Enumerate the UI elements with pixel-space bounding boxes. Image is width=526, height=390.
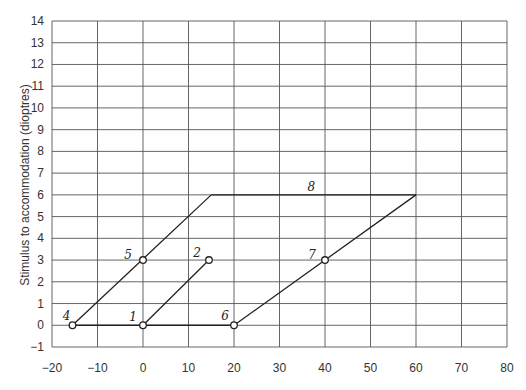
point-marker — [140, 257, 147, 264]
y-tick-label: 4 — [37, 231, 44, 245]
y-tick-label: 2 — [37, 275, 44, 289]
y-tick-label: 14 — [31, 14, 45, 28]
point-label: 4 — [62, 309, 71, 323]
point-marker — [231, 322, 238, 329]
x-tick-label: 0 — [140, 361, 147, 375]
point-label: 5 — [124, 248, 132, 262]
point-label: 1 — [129, 310, 137, 324]
y-tick-label: −1 — [30, 340, 44, 354]
y-tick-label: 0 — [37, 318, 44, 332]
y-tick-label: 12 — [31, 57, 45, 71]
x-tick-label: 20 — [227, 361, 241, 375]
x-tick-label: 10 — [182, 361, 196, 375]
y-tick-label: 13 — [31, 36, 45, 50]
x-tick-label: 70 — [455, 361, 469, 375]
point-label: 7 — [308, 248, 316, 262]
data-line — [143, 260, 209, 325]
x-tick-label: 40 — [318, 361, 332, 375]
x-tick-label: −20 — [42, 361, 63, 375]
y-axis-ticks: −101234567891011121314 — [30, 14, 44, 354]
x-tick-label: −10 — [87, 361, 108, 375]
y-axis-label: Stimulus to accommodation (dioptres) — [18, 84, 32, 285]
y-tick-label: 6 — [37, 188, 44, 202]
y-tick-label: 9 — [37, 123, 44, 137]
y-tick-label: 7 — [37, 166, 44, 180]
x-axis-ticks: −20−1001020304050607080 — [42, 361, 514, 375]
x-tick-label: 30 — [273, 361, 287, 375]
y-tick-label: 8 — [37, 144, 44, 158]
x-tick-label: 50 — [364, 361, 378, 375]
x-tick-label: 80 — [500, 361, 514, 375]
chart: −101234567891011121314 −20−1001020304050… — [0, 0, 526, 390]
y-tick-label: 5 — [37, 210, 44, 224]
point-label: 2 — [192, 246, 201, 260]
point-marker — [140, 322, 147, 329]
point-label: 8 — [308, 180, 316, 194]
x-tick-label: 60 — [409, 361, 423, 375]
y-tick-label: 10 — [31, 101, 45, 115]
point-label: 6 — [221, 309, 229, 323]
y-tick-label: 3 — [37, 253, 44, 267]
grid — [52, 21, 507, 347]
y-tick-label: 11 — [32, 79, 45, 93]
point-marker — [322, 257, 329, 264]
point-marker — [206, 257, 213, 264]
y-tick-label: 1 — [37, 297, 44, 311]
